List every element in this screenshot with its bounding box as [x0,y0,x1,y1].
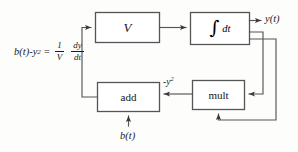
multiplier-block[interactable]: mult [192,80,245,110]
adder-block[interactable]: add [97,82,160,112]
derivative-numerator: dy [71,41,84,50]
feedback-signal-exponent: 2 [170,75,173,82]
adder-block-label: add [121,91,137,103]
gain-block-label: V [124,20,132,36]
equation-fraction-dy-dt: dy dt [71,41,84,62]
wire-integrator-to-mult-right [249,32,263,94]
gain-block[interactable]: V [95,12,160,43]
block-diagram: V ∫ dt add mult y(t) -y2 b(t) b(t)-y2 = … [0,0,298,152]
equation-fraction-one-over-v: 1 V [55,41,65,62]
fraction-numerator: 1 [55,41,64,50]
integrator-block-label-group: ∫ dt [209,20,230,36]
multiplier-block-label: mult [208,89,228,101]
equation-equals-sign: = [44,46,50,57]
input-signal-label: b(t) [120,131,135,142]
integral-sign-icon: ∫ [209,19,219,35]
integrator-block-label: dt [222,23,230,34]
equation-lhs-exponent: 2 [37,48,41,56]
equation-lhs-base: b(t)-y [14,46,37,57]
output-signal-label: y(t) [265,14,280,25]
integrator-block[interactable]: ∫ dt [190,12,250,45]
feedback-signal-label: -y2 [163,76,174,88]
derivative-denominator: dt [72,53,83,62]
fraction-denominator: V [55,53,65,62]
governing-equation: b(t)-y2 = 1 V dy dt [14,41,86,62]
